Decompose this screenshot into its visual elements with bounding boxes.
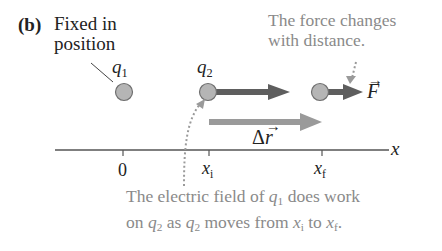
force-arrow-shaft-at-xf xyxy=(327,89,345,95)
fixed-label-line2: position xyxy=(54,34,117,54)
displacement-arrow-shaft xyxy=(209,119,304,125)
work-note-line2: on q2 as q2 moves from xi to xf. xyxy=(126,212,360,238)
q2-label: q2 xyxy=(197,56,213,81)
displacement-label: Δr xyxy=(252,126,273,149)
force-vector-label: F xyxy=(367,80,379,103)
panel-label: (b) xyxy=(18,14,41,36)
displacement-arrow-head xyxy=(300,113,322,131)
charge-q1 xyxy=(116,84,133,101)
work-note-line1: The electric field of q1 does work xyxy=(126,186,360,212)
work-pointer-arrowhead xyxy=(196,99,205,109)
fixed-label-line1: Fixed in xyxy=(54,14,117,34)
x-axis-label: x xyxy=(391,138,399,160)
force-note-pointer-dotted xyxy=(352,62,356,78)
force-note: The force changes with distance. xyxy=(268,10,396,50)
force-arrow-head-at-xf xyxy=(343,84,363,100)
q1-label: q1 xyxy=(112,56,128,81)
work-note: The electric field of q1 does work on q2… xyxy=(126,186,360,239)
charge-q2-initial xyxy=(200,84,217,101)
tick-label-xi: xi xyxy=(202,158,213,181)
force-note-pointer-arrowhead xyxy=(346,76,356,84)
force-arrow-shaft-at-xi xyxy=(215,89,270,95)
force-note-line2: with distance. xyxy=(268,30,396,50)
tick-label-0: 0 xyxy=(118,160,127,181)
charge-q2-final xyxy=(312,84,329,101)
fixed-in-position-label: Fixed in position xyxy=(54,14,117,54)
force-note-line1: The force changes xyxy=(268,10,396,30)
tick-label-xf: xf xyxy=(314,158,326,181)
fixed-leader-line xyxy=(91,63,113,82)
work-pointer-dotted xyxy=(184,103,201,186)
force-arrow-head-at-xi xyxy=(268,84,290,100)
